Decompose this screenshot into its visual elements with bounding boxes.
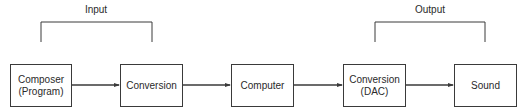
computer-label: Computer [241, 80, 285, 92]
sound-label: Sound [471, 80, 500, 92]
output-bracket [375, 22, 485, 42]
conversion-input-label: Conversion [126, 80, 177, 92]
composer-sublabel: (Program) [18, 86, 63, 98]
conversion-dac-sublabel: (DAC) [361, 86, 389, 98]
sound-box: Sound [454, 64, 517, 107]
input-label: Input [71, 4, 121, 16]
conversion-dac-label: Conversion [349, 74, 400, 86]
conversion-dac-box: Conversion (DAC) [343, 64, 406, 107]
conversion-input-box: Conversion [120, 64, 183, 107]
composer-box: Composer (Program) [10, 64, 72, 107]
output-label: Output [405, 4, 455, 16]
composer-label: Composer [18, 74, 64, 86]
computer-box: Computer [231, 64, 294, 107]
input-bracket [41, 22, 152, 42]
